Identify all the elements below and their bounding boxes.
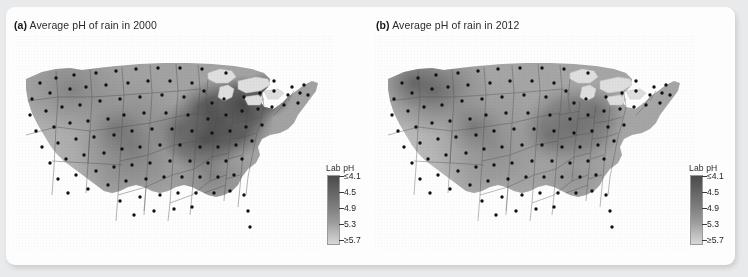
legend-b-body: ≤4.1 4.5 4.9 5.3 ≥5.7 [688, 174, 735, 246]
legend-b-colorbar [690, 175, 703, 245]
map-b [374, 35, 696, 250]
legend-a-label-4: ≥5.7 [344, 236, 361, 245]
legend-b-label-2: 4.9 [707, 204, 719, 213]
legend-b-label-1: 4.5 [707, 188, 719, 197]
figure-panel-b: (b) Average pH of rain in 2012 [372, 7, 735, 265]
map-b-surface [374, 35, 696, 250]
legend-b-label-0: ≤4.1 [707, 172, 724, 181]
map-a [12, 35, 334, 250]
legend-a-label-2: 4.9 [344, 204, 356, 213]
legend-a-label-1: 4.5 [344, 188, 356, 197]
legend-b-label-3: 5.3 [707, 220, 719, 229]
panel-a-title: (a) Average pH of rain in 2000 [14, 19, 157, 31]
legend-a-label-0: ≤4.1 [344, 172, 361, 181]
panel-b-title: (b) Average pH of rain in 2012 [376, 19, 520, 31]
legend-b-label-4: ≥5.7 [707, 236, 724, 245]
figure-panel-a: (a) Average pH of rain in 2000 [6, 7, 372, 265]
map-b-svg [374, 35, 696, 250]
legend-a-colorbar [327, 175, 340, 245]
panel-a-tag: (a) [14, 19, 27, 31]
map-a-svg [12, 35, 334, 250]
map-a-surface [12, 35, 334, 250]
figure-card: (a) Average pH of rain in 2000 [6, 7, 735, 265]
panel-b-title-text: Average pH of rain in 2012 [392, 19, 519, 31]
legend-b: Lab pH ≤4.1 4.5 4.9 5.3 ≥5.7 [688, 163, 735, 251]
panel-b-tag: (b) [376, 19, 390, 31]
panel-a-title-text: Average pH of rain in 2000 [30, 19, 157, 31]
legend-a-label-3: 5.3 [344, 220, 356, 229]
